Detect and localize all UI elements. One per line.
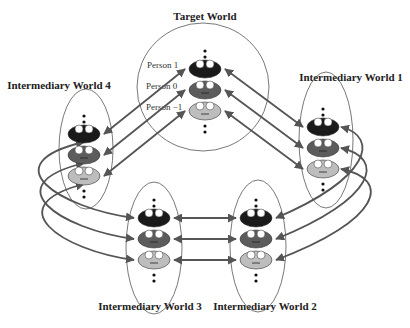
w4-face-2 — [68, 167, 100, 185]
connection-arrow-w4-target-person-2 — [104, 111, 185, 176]
w2-dot-top — [254, 198, 257, 201]
target-face-2 — [189, 102, 221, 120]
face-eye-right — [206, 60, 214, 68]
w2-face-0 — [240, 209, 272, 227]
w4-face-1 — [68, 146, 100, 164]
face-eye-left — [196, 102, 204, 110]
face-eye-left — [314, 139, 322, 147]
w3-face-2 — [138, 251, 170, 269]
w1-dot-top — [321, 113, 324, 116]
face-eye-left — [196, 81, 204, 89]
face-eye-right — [85, 125, 93, 133]
face-eye-right — [324, 118, 332, 126]
w1-face-0 — [307, 118, 339, 136]
target-dot-top — [203, 49, 206, 52]
w4-dot-top — [82, 120, 85, 123]
connection-arrow-w4-target-person-1 — [104, 90, 185, 155]
person-1-label: Person 1 — [147, 60, 178, 70]
face-body — [138, 209, 170, 227]
face-eye-right — [257, 230, 265, 238]
face-eye-left — [314, 160, 322, 168]
face-eye-right — [85, 146, 93, 154]
w4-face-0 — [68, 125, 100, 143]
target-dot-bottom — [203, 130, 206, 133]
w3-dot-top — [152, 198, 155, 201]
face-body — [307, 118, 339, 136]
face-eye-left — [247, 230, 255, 238]
w1-dot-top — [321, 107, 324, 110]
w2-dot-bottom — [254, 279, 257, 282]
connection-arrow-w3-w4-person-2 — [42, 184, 134, 260]
w1-face-1 — [307, 139, 339, 157]
target-dot-top — [203, 55, 206, 58]
face-eye-right — [257, 251, 265, 259]
w1-dot-bottom — [321, 182, 324, 185]
face-body — [189, 102, 221, 120]
target-face-0 — [189, 60, 221, 78]
face-body — [240, 209, 272, 227]
w3-face-0 — [138, 209, 170, 227]
face-eye-left — [145, 251, 153, 259]
face-eye-right — [206, 102, 214, 110]
face-body — [240, 251, 272, 269]
w3-dot-top — [152, 204, 155, 207]
face-eye-left — [75, 146, 83, 154]
face-eye-left — [314, 118, 322, 126]
face-body — [307, 160, 339, 178]
w1-face-2 — [307, 160, 339, 178]
face-eye-right — [206, 81, 214, 89]
intermediary-world-4-title: Intermediary World 4 — [7, 79, 111, 91]
w4-dot-bottom — [82, 195, 85, 198]
face-eye-left — [75, 167, 83, 175]
face-body — [138, 251, 170, 269]
world-mapping-diagram: Target World Intermediary World 1 Interm… — [0, 0, 410, 328]
face-eye-right — [155, 209, 163, 217]
w3-dot-bottom — [152, 273, 155, 276]
person-0-label: Person 0 — [146, 81, 178, 91]
intermediary-world-1-title: Intermediary World 1 — [299, 71, 403, 83]
face-eye-right — [155, 230, 163, 238]
w2-face-2 — [240, 251, 272, 269]
face-body — [189, 60, 221, 78]
target-dot-bottom — [203, 124, 206, 127]
face-eye-right — [155, 251, 163, 259]
w4-dot-bottom — [82, 189, 85, 192]
w1-dot-bottom — [321, 188, 324, 191]
face-eye-right — [257, 209, 265, 217]
w2-dot-top — [254, 204, 257, 207]
face-eye-right — [324, 160, 332, 168]
face-eye-left — [145, 230, 153, 238]
target-face-1 — [189, 81, 221, 99]
face-body — [68, 125, 100, 143]
face-eye-left — [196, 60, 204, 68]
face-body — [189, 81, 221, 99]
face-eye-left — [145, 209, 153, 217]
face-body — [240, 230, 272, 248]
face-eye-right — [324, 139, 332, 147]
face-eye-left — [247, 251, 255, 259]
face-eye-right — [85, 167, 93, 175]
w3-face-1 — [138, 230, 170, 248]
face-body — [68, 146, 100, 164]
w2-face-1 — [240, 230, 272, 248]
face-eye-left — [247, 209, 255, 217]
face-body — [68, 167, 100, 185]
w2-dot-bottom — [254, 273, 257, 276]
face-eye-left — [75, 125, 83, 133]
face-body — [138, 230, 170, 248]
target-world-title: Target World — [173, 10, 236, 22]
w4-dot-top — [82, 114, 85, 117]
w3-dot-bottom — [152, 279, 155, 282]
intermediary-world-3-title: Intermediary World 3 — [98, 300, 202, 312]
face-body — [307, 139, 339, 157]
